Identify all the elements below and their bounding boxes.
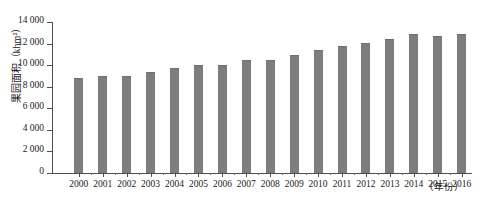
x-tick-label: 2013 bbox=[380, 179, 399, 189]
bar bbox=[146, 72, 155, 173]
x-tick-label: 2001 bbox=[93, 179, 112, 189]
bar bbox=[290, 55, 299, 173]
x-tick-minor bbox=[163, 173, 164, 175]
y-tick-4000: 4 000 bbox=[47, 130, 52, 131]
x-tick-label: 2002 bbox=[117, 179, 136, 189]
x-tick-minor bbox=[234, 173, 235, 175]
x-tick bbox=[127, 173, 128, 177]
x-tick bbox=[246, 173, 247, 177]
y-tick-label: 10 000 bbox=[18, 58, 44, 68]
bar bbox=[385, 39, 394, 173]
bar bbox=[314, 50, 323, 173]
plot-area: 02 0004 0006 0008 00010 00012 00014 000 … bbox=[52, 22, 472, 174]
bar bbox=[338, 46, 347, 173]
x-tick-minor bbox=[210, 173, 211, 175]
x-tick-label: 2014 bbox=[404, 179, 423, 189]
y-tick-label: 6 000 bbox=[23, 101, 44, 111]
bar bbox=[74, 78, 83, 173]
x-tick-label: 2003 bbox=[141, 179, 160, 189]
y-tick-label: 8 000 bbox=[23, 80, 44, 90]
x-tick-label: 2005 bbox=[189, 179, 208, 189]
x-tick-label: 2011 bbox=[333, 179, 352, 189]
x-tick bbox=[198, 173, 199, 177]
x-tick-minor bbox=[426, 173, 427, 175]
x-tick-minor bbox=[306, 173, 307, 175]
x-tick bbox=[270, 173, 271, 177]
x-tick-minor bbox=[282, 173, 283, 175]
x-tick bbox=[462, 173, 463, 177]
x-tick bbox=[438, 173, 439, 177]
x-tick bbox=[79, 173, 80, 177]
x-tick bbox=[222, 173, 223, 177]
x-axis-unit-label: （年份） bbox=[424, 179, 464, 193]
y-tick-0: 0 bbox=[47, 173, 52, 174]
y-tick-label: 14 000 bbox=[18, 15, 44, 25]
x-tick bbox=[175, 173, 176, 177]
y-tick-6000: 6 000 bbox=[47, 108, 52, 109]
bar bbox=[433, 36, 442, 173]
x-tick-label: 2012 bbox=[356, 179, 375, 189]
bar bbox=[361, 43, 370, 174]
x-tick bbox=[414, 173, 415, 177]
x-tick bbox=[151, 173, 152, 177]
bar-chart: 果园面积（khm²） 02 0004 0006 0008 00010 00012… bbox=[0, 0, 485, 203]
x-tick-label: 2009 bbox=[285, 179, 304, 189]
x-tick-minor bbox=[330, 173, 331, 175]
bar bbox=[194, 65, 203, 173]
x-tick-label: 2010 bbox=[309, 179, 328, 189]
y-tick-label: 2 000 bbox=[23, 144, 44, 154]
bar bbox=[409, 34, 418, 173]
y-tick-2000: 2 000 bbox=[47, 151, 52, 152]
bar bbox=[218, 65, 227, 173]
x-tick-minor bbox=[402, 173, 403, 175]
bar bbox=[457, 34, 466, 173]
x-tick-minor bbox=[378, 173, 379, 175]
y-tick-label: 0 bbox=[39, 166, 44, 176]
x-tick bbox=[390, 173, 391, 177]
x-tick bbox=[103, 173, 104, 177]
x-tick-minor bbox=[139, 173, 140, 175]
x-tick-label: 2004 bbox=[165, 179, 184, 189]
x-tick-label: 2007 bbox=[237, 179, 256, 189]
y-tick-10000: 10 000 bbox=[47, 65, 52, 66]
x-tick bbox=[342, 173, 343, 177]
x-tick-minor bbox=[91, 173, 92, 175]
bar bbox=[242, 60, 251, 173]
x-tick bbox=[294, 173, 295, 177]
x-tick bbox=[366, 173, 367, 177]
x-tick-minor bbox=[450, 173, 451, 175]
x-tick-minor bbox=[115, 173, 116, 175]
bar bbox=[266, 60, 275, 173]
x-tick-label: 2008 bbox=[261, 179, 280, 189]
x-tick-label: 2006 bbox=[213, 179, 232, 189]
bar bbox=[170, 68, 179, 173]
x-tick-minor bbox=[186, 173, 187, 175]
bar bbox=[122, 76, 131, 173]
y-tick-14000: 14 000 bbox=[47, 22, 52, 23]
y-tick-label: 12 000 bbox=[18, 37, 44, 47]
y-tick-label: 4 000 bbox=[23, 123, 44, 133]
x-tick-minor bbox=[354, 173, 355, 175]
bar bbox=[98, 76, 107, 173]
y-axis-line bbox=[52, 22, 53, 174]
y-tick-12000: 12 000 bbox=[47, 44, 52, 45]
x-tick-minor bbox=[258, 173, 259, 175]
x-tick-label: 2000 bbox=[69, 179, 88, 189]
x-tick bbox=[318, 173, 319, 177]
y-tick-8000: 8 000 bbox=[47, 87, 52, 88]
